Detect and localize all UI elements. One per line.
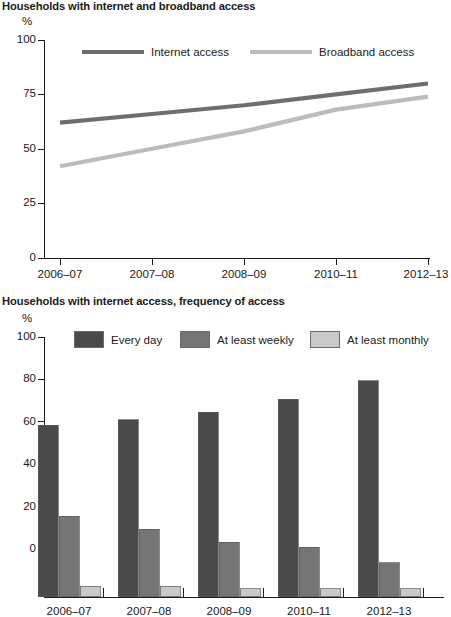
bar-group-separator	[343, 588, 344, 597]
bar-2006-07-at-least-monthly	[80, 586, 100, 596]
bar-chart-plot-area	[0, 295, 451, 612]
bar-2008-09-at-least-monthly	[240, 589, 260, 597]
bar-2007-08-at-least-monthly	[160, 586, 180, 596]
line-chart-panel: Households with internet and broadband a…	[0, 0, 451, 295]
line-chart-plot-area	[0, 0, 451, 295]
bar-2006-07-every-day	[38, 425, 58, 597]
bar-2012-13-every-day	[358, 381, 378, 597]
bar-2006-07-at-least-weekly	[59, 516, 79, 597]
bar-chart-panel: Households with internet access, frequen…	[0, 295, 451, 612]
bar-2008-09-every-day	[198, 412, 218, 597]
bar-2010-11-at-least-monthly	[320, 589, 340, 597]
bar-2012-13-at-least-monthly	[400, 589, 420, 597]
bar-2007-08-at-least-weekly	[139, 529, 159, 597]
bar-group-separator	[263, 588, 264, 597]
bar-group-separator	[183, 588, 184, 597]
bar-group-separator	[103, 588, 104, 597]
bar-2010-11-every-day	[278, 399, 298, 597]
bar-2008-09-at-least-weekly	[219, 542, 239, 597]
bar-2010-11-at-least-weekly	[299, 547, 319, 596]
bar-group-separator	[423, 588, 424, 597]
bar-2007-08-every-day	[118, 420, 138, 597]
bar-2012-13-at-least-weekly	[379, 563, 399, 597]
